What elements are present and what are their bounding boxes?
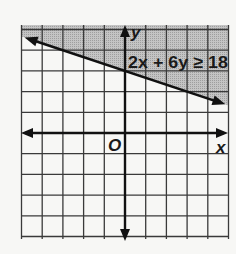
x-axis-left-arrow-icon	[21, 128, 33, 138]
inequality-label: 2x + 6y ≥ 18	[128, 53, 228, 72]
coordinate-plane: y x O 2x + 6y ≥ 18	[0, 0, 236, 254]
boundary-left-arrow-icon	[25, 37, 39, 46]
y-axis-label: y	[130, 23, 142, 42]
x-axis-right-arrow-icon	[216, 128, 228, 138]
x-axis-label: x	[215, 138, 227, 157]
origin-label: O	[108, 136, 121, 155]
y-axis-down-arrow-icon	[120, 229, 130, 241]
